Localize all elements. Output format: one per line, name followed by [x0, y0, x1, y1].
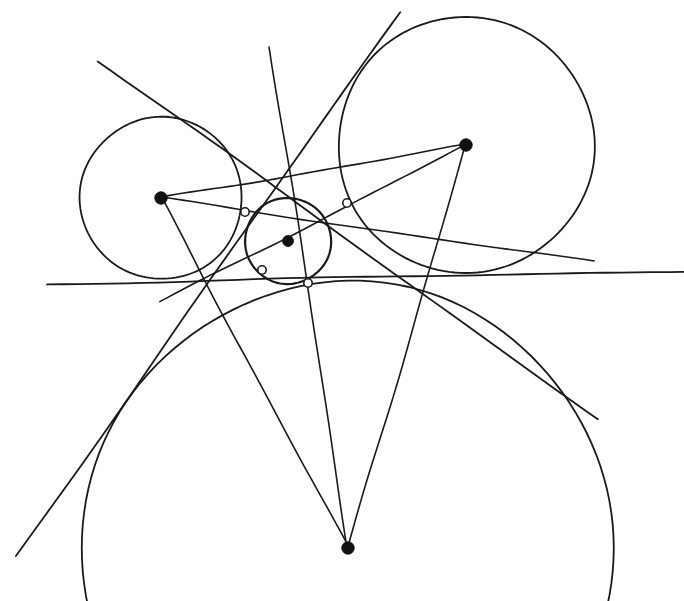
geometry-diagram — [0, 0, 684, 601]
cevian-left-center-through-incenter — [161, 197, 594, 261]
geometry-figure-canvas — [0, 0, 684, 601]
triangle-side-right — [98, 61, 598, 419]
tangency-lower-right — [304, 279, 312, 287]
cevian-left-center-to-right-tangency — [161, 144, 466, 197]
tangency-upper-right — [343, 199, 351, 207]
excenter-left — [155, 192, 167, 204]
triangle-side-horizontal — [47, 272, 684, 285]
tangency-lower-left — [258, 266, 266, 274]
vertices-layer — [155, 139, 472, 554]
excenter-right — [460, 139, 472, 151]
cevian-right-center-to-bottom-center — [348, 145, 466, 548]
incenter — [283, 236, 294, 247]
excenter-bottom — [342, 542, 354, 554]
tangency-upper-left — [241, 208, 249, 216]
